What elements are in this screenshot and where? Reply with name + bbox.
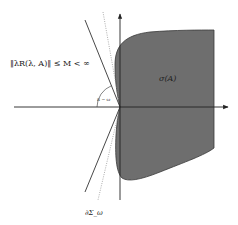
sector-boundary-label: ∂Σ_ω: [85, 210, 103, 217]
resolvent-bound-label: ‖λR(λ, A)‖ ≤ M < ∞: [10, 60, 90, 68]
spectrum-region: [115, 30, 214, 180]
sectorial-operator-diagram: [0, 0, 238, 225]
angle-label: π − ω: [97, 98, 110, 103]
sector-line-lower: [85, 107, 120, 192]
spectrum-label: σ(A): [159, 75, 176, 83]
